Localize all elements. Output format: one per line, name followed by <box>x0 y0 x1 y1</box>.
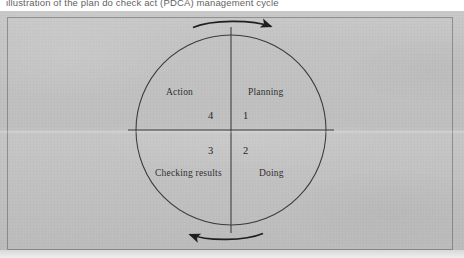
top-cycle-arrow <box>193 21 271 27</box>
quadrant-label-doing: Doing <box>259 168 284 178</box>
page-bottom-edge <box>0 250 464 258</box>
quadrant-label-checking-results: Checking results <box>155 168 222 178</box>
quadrant-label-planning: Planning <box>248 87 283 97</box>
quadrant-number-3: 3 <box>208 145 213 156</box>
quadrant-label-action: Action <box>166 87 193 97</box>
quadrant-number-2: 2 <box>243 145 248 156</box>
quadrant-number-4: 4 <box>208 110 213 121</box>
pdca-cycle-diagram <box>0 11 464 250</box>
scanned-page: illustration of the plan do check act (P… <box>0 0 464 258</box>
bottom-cycle-arrow <box>190 234 263 240</box>
quadrant-number-1: 1 <box>243 110 248 121</box>
page-header-text: illustration of the plan do check act (P… <box>6 0 446 9</box>
